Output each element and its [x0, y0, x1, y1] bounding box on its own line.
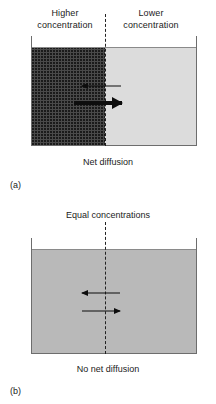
vessel-b [31, 238, 197, 354]
net-diffusion-label: Net diffusion [0, 157, 216, 168]
lower-concentration-line1: Lower [138, 8, 163, 18]
vessel-a-liquid-surface [32, 47, 196, 48]
arrow-head-left-icon [81, 290, 88, 296]
vessel-a-floor [31, 145, 197, 146]
membrane-divider-b [105, 222, 106, 354]
no-net-diffusion-label: No net diffusion [0, 364, 216, 375]
low-concentration-region [105, 47, 196, 145]
higher-concentration-line2: concentration [37, 20, 92, 30]
panel-a: Higher concentration Lower concentration… [0, 0, 216, 200]
diffusion-figure: Higher concentration Lower concentration… [0, 0, 216, 404]
membrane-divider-a [105, 14, 106, 146]
arrow-head-right-icon [112, 97, 123, 109]
high-concentration-region [32, 47, 105, 145]
lower-concentration-line2: concentration [123, 20, 178, 30]
arrow-head-left-icon [81, 83, 88, 89]
panel-b: Equal concentrations No net diffusion (b… [0, 200, 216, 404]
vessel-b-liquid-surface [32, 249, 196, 250]
vessel-b-right-wall [196, 238, 197, 354]
higher-concentration-line1: Higher [51, 8, 78, 18]
vessel-b-floor [31, 353, 197, 354]
lower-concentration-caption: Lower concentration [112, 8, 190, 31]
arrow-head-right-icon [114, 308, 121, 314]
vessel-a [31, 36, 197, 146]
panel-a-label: (a) [10, 180, 21, 191]
vessel-a-right-wall [196, 36, 197, 146]
equal-concentration-region [32, 249, 196, 353]
higher-concentration-caption: Higher concentration [26, 8, 104, 31]
panel-b-label: (b) [10, 386, 21, 397]
equal-concentrations-caption: Equal concentrations [0, 210, 216, 221]
